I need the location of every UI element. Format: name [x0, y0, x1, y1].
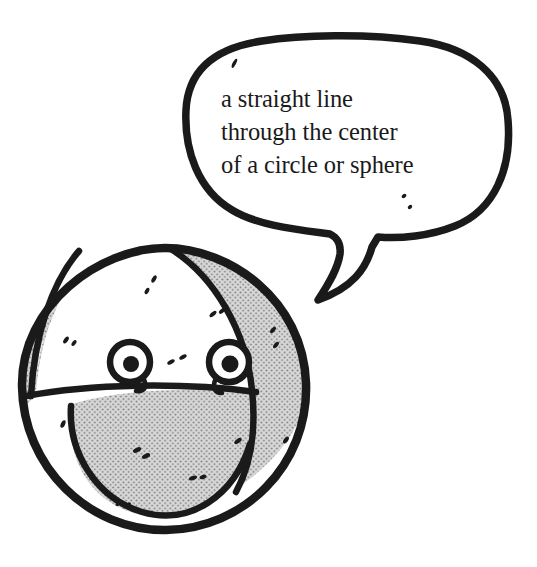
right-eye-pupil	[222, 356, 239, 373]
illustration-canvas: a straight line through the center of a …	[0, 0, 537, 567]
speech-bubble	[186, 36, 509, 300]
speech-bubble-shape	[186, 36, 509, 300]
illustration-svg	[0, 0, 537, 567]
sphere-character	[20, 248, 308, 530]
left-eye-pupil	[123, 356, 139, 372]
